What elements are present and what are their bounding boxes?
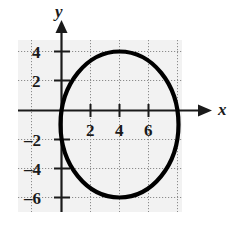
y-axis-arrowhead	[56, 20, 68, 33]
x-tick-label-6: 6	[144, 122, 153, 139]
x-axis-label: x	[218, 101, 227, 118]
y-tick-label-2: 2	[32, 73, 41, 90]
ellipse-figure: 4 2 –2 –4 –6 2 4 6 y x	[0, 0, 233, 226]
y-tick-label-4: 4	[32, 44, 41, 61]
x-tick-label-2: 2	[86, 122, 95, 139]
y-tick-label-neg4: –4	[24, 161, 41, 178]
y-tick-label-neg6: –6	[24, 190, 41, 207]
y-tick-label-neg2: –2	[24, 132, 41, 149]
y-axis-label: y	[55, 3, 63, 20]
x-tick-label-4: 4	[115, 122, 124, 139]
x-axis-arrowhead	[198, 105, 212, 117]
